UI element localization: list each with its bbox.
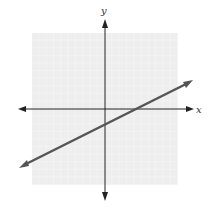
x-axis-label: x [196,104,202,115]
coordinate-plane: x y [0,0,210,208]
y-axis-label: y [100,5,107,16]
